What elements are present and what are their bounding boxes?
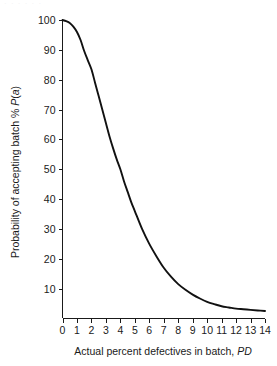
y-tick-label: 30 [44,223,56,235]
x-tick-label: 4 [117,324,123,336]
x-tick-label: 9 [190,324,196,336]
x-axis-title-italic: PD [237,345,252,357]
x-tick-label: 1 [74,324,80,336]
y-axis-title: Probability of accepting batch % P(a) [9,86,21,258]
x-tick-label: 6 [146,324,152,336]
y-tick-label: 40 [44,193,56,205]
x-tick-label: 11 [216,324,227,336]
x-tick-label: 3 [103,324,109,336]
y-tick-label: 50 [44,163,56,175]
oc-curve-line [63,20,266,311]
y-tick-label: 10 [44,283,56,295]
x-tick-label: 13 [245,324,257,336]
x-tick-label: 12 [230,324,242,336]
y-tick-label: 100 [38,14,56,26]
x-tick-label: 2 [89,324,95,336]
x-tick-label: 0 [60,324,66,336]
y-axis-title-prefix: Probability of accepting batch % [9,106,21,258]
y-axis-title-italic-p: P [9,99,21,106]
y-tick-label: 90 [44,44,56,56]
y-tick-label: 20 [44,253,56,265]
chart-canvas: Probability of accepting batch % P(a) Ac… [0,0,277,366]
x-tick-label: 14 [259,324,271,336]
y-tick-label: 70 [44,104,56,116]
y-axis-ticks: 102030405060708090100 [38,14,63,295]
x-tick-label: 7 [161,324,167,336]
y-tick-label: 60 [44,133,56,145]
y-tick-label: 80 [44,74,56,86]
x-tick-label: 8 [175,324,181,336]
x-tick-label: 5 [132,324,138,336]
x-axis-ticks: 01234567891011121314 [60,319,271,336]
x-axis-title-prefix: Actual percent defectives in batch, [74,345,237,357]
x-axis-title: Actual percent defectives in batch, PD [74,345,252,357]
y-axis-title-paren-close: ) [9,86,21,90]
x-tick-label: 10 [201,324,213,336]
oc-curve-figure: · · · · · · Probability of accepting bat… [0,0,277,366]
